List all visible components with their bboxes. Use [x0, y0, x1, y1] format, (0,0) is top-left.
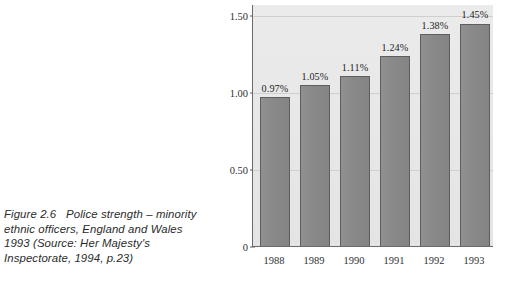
- x-axis-tick-labels: 198819891990199119921993: [252, 5, 492, 287]
- x-axis-tick-label: 1988: [252, 255, 296, 266]
- y-axis-tick-label: 1.00: [208, 87, 248, 98]
- x-axis-tick-label: 1993: [452, 255, 496, 266]
- x-axis-tick-label: 1989: [292, 255, 336, 266]
- y-axis-tick-label: 0.50: [208, 164, 248, 175]
- bar-chart: Percentage 00.501.001.50 0.97%1.05%1.11%…: [218, 0, 515, 287]
- y-axis-tick-label: 0: [208, 242, 248, 253]
- y-axis-tick-label: 1.50: [208, 10, 248, 21]
- figure-caption-line: 1993 (Source: Her Majesty's: [4, 236, 214, 251]
- figure-caption: Figure 2.6 Police strength – minority et…: [4, 207, 214, 265]
- figure-caption-line: Inspectorate, 1994, p.23): [4, 251, 214, 266]
- y-axis-tick-labels: 00.501.001.50: [218, 0, 248, 287]
- x-axis-tick-label: 1990: [332, 255, 376, 266]
- figure-caption-line: Figure 2.6 Police strength – minority: [4, 207, 214, 222]
- x-axis-tick-label: 1992: [412, 255, 456, 266]
- x-axis-tick-label: 1991: [372, 255, 416, 266]
- figure-caption-line: ethnic officers, England and Wales: [4, 222, 214, 237]
